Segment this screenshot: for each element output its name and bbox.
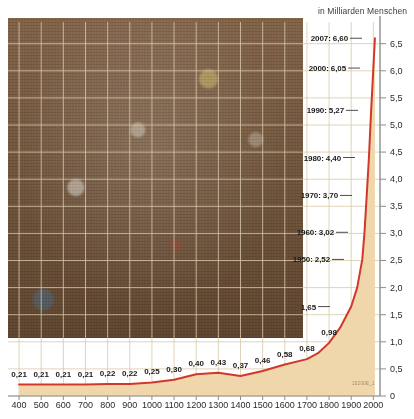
- x-axis-tick-label: 900: [122, 400, 137, 410]
- data-point-label: 0,46: [255, 356, 271, 365]
- data-point-label: 0,21: [78, 369, 94, 378]
- x-axis-tick-label: 1900: [341, 400, 361, 410]
- x-axis-tick-label: 600: [56, 400, 71, 410]
- y-axis-tick-label: 6,0: [390, 66, 403, 76]
- y-axis-tick-label: 1,0: [390, 337, 403, 347]
- data-point-label: 0,37: [233, 360, 249, 369]
- y-axis-tick-label: 1,5: [390, 310, 403, 320]
- y-axis-tick-label: 3,5: [390, 201, 403, 211]
- data-point-label: 0,21: [11, 369, 27, 378]
- data-point-label: 0,58: [277, 349, 293, 358]
- x-axis-tick-label: 400: [12, 400, 27, 410]
- unit-note: in Milliarden Menschen: [318, 6, 407, 16]
- x-axis-tick-label: 1400: [230, 400, 250, 410]
- curve-callout: 1970: 3,70: [301, 191, 338, 200]
- data-point-label: 0,43: [211, 357, 227, 366]
- x-axis-tick-label: 1200: [186, 400, 206, 410]
- curve-callout: 2007: 6,60: [311, 34, 348, 43]
- data-point-label: 0,68: [299, 344, 315, 353]
- x-axis-tick-label: 1600: [275, 400, 295, 410]
- curve-callout: 1950: 2,52: [293, 255, 330, 264]
- x-axis-tick-label: 500: [34, 400, 49, 410]
- photo-grain-layer: [8, 18, 303, 338]
- y-axis-tick-label: 4,5: [390, 147, 403, 157]
- y-axis-tick-label: 0,5: [390, 364, 403, 374]
- y-axis-tick-label: 2,0: [390, 283, 403, 293]
- y-axis-tick-label: 3,0: [390, 228, 403, 238]
- data-point-label: 0,98: [321, 327, 337, 336]
- data-point-label: 0,21: [56, 369, 72, 378]
- data-point-label: 0,25: [144, 367, 160, 376]
- curve-callout: 1990: 5,27: [307, 106, 344, 115]
- crowd-photo: [8, 18, 303, 338]
- y-axis-tick-label: 4,0: [390, 174, 403, 184]
- y-axis-tick-label: 6,5: [390, 39, 403, 49]
- data-point-label: 0,30: [166, 364, 182, 373]
- curve-callout: 1,65: [301, 302, 316, 311]
- y-axis-tick-label: 0: [390, 391, 395, 401]
- x-axis-tick-label: 1500: [253, 400, 273, 410]
- x-axis-tick-label: 700: [78, 400, 93, 410]
- data-point-label: 0,21: [33, 369, 49, 378]
- data-point-label: 0,40: [188, 359, 204, 368]
- y-axis-tick-label: 5,0: [390, 120, 403, 130]
- data-point-label: 0,22: [122, 369, 138, 378]
- curve-callout: 1960: 3,02: [297, 228, 334, 237]
- y-axis-tick-label: 2,5: [390, 255, 403, 265]
- watermark-text: 10200E_1: [352, 381, 375, 386]
- data-point-label: 0,22: [100, 369, 116, 378]
- curve-callout: 1980: 4,40: [304, 153, 341, 162]
- curve-callout: 2000: 6,05: [309, 64, 346, 73]
- x-axis-tick-label: 1700: [297, 400, 317, 410]
- x-axis-tick-label: 1300: [208, 400, 228, 410]
- x-axis-tick-label: 1100: [164, 400, 183, 410]
- population-growth-infographic: in Milliarden Menschen 00,51,01,52,02,53…: [0, 0, 414, 419]
- x-axis-tick-label: 1000: [142, 400, 162, 410]
- x-axis-tick-label: 2000: [363, 400, 383, 410]
- y-axis-tick-label: 5,5: [390, 93, 403, 103]
- x-axis-tick-label: 1800: [319, 400, 339, 410]
- x-axis-tick-label: 800: [100, 400, 115, 410]
